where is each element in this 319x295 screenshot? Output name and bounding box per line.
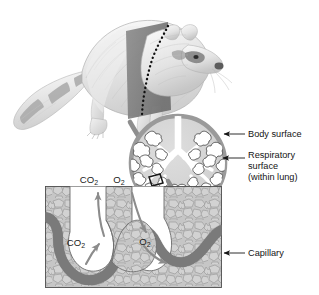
callout-respiratory-surface: Respiratory surface (within lung) [223, 150, 298, 182]
label-respiratory-surface-line1: Respiratory [248, 150, 295, 160]
label-body-surface: Body surface [248, 129, 302, 139]
label-capillary: Capillary [248, 248, 284, 258]
callout-body-surface: Body surface [224, 129, 302, 139]
label-respiratory-surface-line2: surface [248, 161, 278, 171]
label-respiratory-surface-line3: (within lung) [248, 172, 298, 182]
raccoon-nose [215, 63, 224, 70]
raccoon-eye [193, 55, 198, 59]
respiration-diagram: CO2 O2 CO2 O2 Body surface Respiratory s… [0, 0, 319, 295]
figure-root: CO2 O2 CO2 O2 Body surface Respiratory s… [0, 0, 319, 295]
gas-label-o2-top: O2 [113, 174, 124, 186]
raccoon-tail [14, 71, 92, 130]
gas-label-co2-top: CO2 [80, 174, 98, 186]
raccoon-hind-foot [90, 118, 107, 135]
callout-capillary: Capillary [224, 248, 284, 258]
